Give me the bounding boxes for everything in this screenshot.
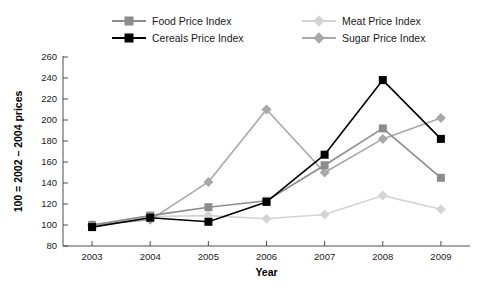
x-tick-label: 2005 xyxy=(198,251,219,262)
y-tick-label: 240 xyxy=(41,72,57,83)
y-tick-label: 160 xyxy=(41,156,57,167)
price-index-line-chart: Food Price IndexCereals Price IndexMeat … xyxy=(0,0,485,300)
y-tick-label: 180 xyxy=(41,135,57,146)
y-tick-label: 140 xyxy=(41,177,57,188)
data-point-diamond[interactable] xyxy=(378,191,388,201)
data-point-diamond[interactable] xyxy=(262,214,272,224)
series-line xyxy=(92,128,441,225)
y-tick-label: 260 xyxy=(41,51,57,62)
series-meat-price-index xyxy=(87,191,446,230)
y-axis-title: 100 = 2002 – 2004 prices xyxy=(12,90,24,212)
series-food-price-index xyxy=(88,124,445,229)
data-point-diamond[interactable] xyxy=(436,204,446,214)
data-point-diamond[interactable] xyxy=(378,134,388,144)
x-tick-label: 2006 xyxy=(256,251,277,262)
label-layer: 8010012014016018020022024026020032004200… xyxy=(12,51,451,278)
x-tick-label: 2003 xyxy=(82,251,103,262)
data-point-square[interactable] xyxy=(379,76,387,84)
y-tick-label: 100 xyxy=(41,219,57,230)
data-point-diamond[interactable] xyxy=(436,113,446,123)
x-axis-title: Year xyxy=(255,266,277,278)
series-sugar-price-index xyxy=(87,105,446,231)
data-point-square[interactable] xyxy=(321,151,329,159)
data-point-square[interactable] xyxy=(379,124,387,132)
data-point-square[interactable] xyxy=(88,223,96,231)
data-point-square[interactable] xyxy=(204,203,212,211)
data-point-square[interactable] xyxy=(146,214,154,222)
plot-svg: 8010012014016018020022024026020032004200… xyxy=(0,0,485,300)
x-tick-label: 2009 xyxy=(430,251,451,262)
plot-area: 8010012014016018020022024026020032004200… xyxy=(0,0,485,300)
x-tick-label: 2008 xyxy=(372,251,393,262)
data-point-square[interactable] xyxy=(321,161,329,169)
data-point-square[interactable] xyxy=(263,198,271,206)
series-line xyxy=(92,110,441,226)
data-point-square[interactable] xyxy=(204,218,212,226)
y-tick-label: 200 xyxy=(41,114,57,125)
data-point-square[interactable] xyxy=(437,135,445,143)
y-tick-label: 80 xyxy=(46,240,57,251)
series-cereals-price-index xyxy=(88,76,445,231)
x-tick-label: 2007 xyxy=(314,251,335,262)
data-point-diamond[interactable] xyxy=(320,210,330,220)
y-tick-label: 220 xyxy=(41,93,57,104)
x-tick-label: 2004 xyxy=(140,251,161,262)
series-layer xyxy=(87,76,446,231)
data-point-square[interactable] xyxy=(437,174,445,182)
y-tick-label: 120 xyxy=(41,198,57,209)
